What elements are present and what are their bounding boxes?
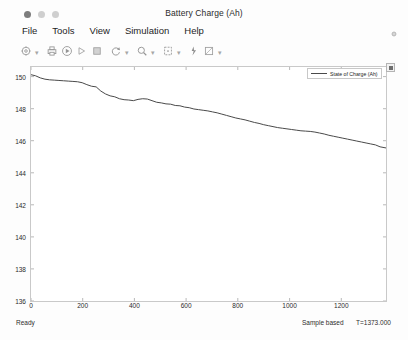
step-forward-icon[interactable] <box>74 43 89 59</box>
y-tick-label: 148 <box>15 105 26 112</box>
zoom-icon[interactable] <box>134 43 149 59</box>
run-icon[interactable] <box>59 43 74 59</box>
y-tick-label: 142 <box>15 201 26 208</box>
signal-statistics-icon[interactable] <box>201 43 216 59</box>
status-ready-text: Ready <box>16 319 35 326</box>
window-title: Battery Charge (Ah) <box>0 8 408 18</box>
signal-plot <box>31 67 386 301</box>
y-tick-label: 144 <box>15 169 26 176</box>
rotate-dropdown-caret[interactable]: ▾ <box>123 43 130 59</box>
x-tick-label: 600 <box>181 302 192 309</box>
menu-item-tools[interactable]: Tools <box>51 24 75 37</box>
x-axis-labels: 020040060080010001200 <box>0 302 408 314</box>
zoom-dropdown-caret[interactable]: ▾ <box>149 43 156 59</box>
y-tick-label: 150 <box>15 73 26 80</box>
x-tick-label: 1200 <box>334 302 348 309</box>
menu-item-help[interactable]: Help <box>183 24 205 37</box>
stop-icon[interactable] <box>89 43 104 59</box>
legend-color-swatch <box>311 73 327 74</box>
status-sample-mode: Sample based <box>302 319 344 326</box>
plot-area[interactable] <box>30 66 387 302</box>
menu-item-simulation[interactable]: Simulation <box>124 24 170 37</box>
cursor-measurements-icon[interactable] <box>186 43 201 59</box>
configuration-properties-icon[interactable] <box>18 43 33 59</box>
legend-label-state-of-charge: State of Charge (Ah) <box>330 71 378 77</box>
axes-properties-icon[interactable] <box>386 63 395 72</box>
series-line-state-of-charge <box>31 75 386 148</box>
y-tick-label: 138 <box>15 265 26 272</box>
menu-bar: File Tools View Simulation Help <box>0 24 408 41</box>
title-bar: Battery Charge (Ah) <box>0 0 408 22</box>
status-sim-time: T=1373.000 <box>356 319 391 326</box>
autoscale-icon[interactable] <box>160 43 175 59</box>
x-tick-label: 1000 <box>282 302 296 309</box>
print-icon[interactable] <box>44 43 59 59</box>
dock-pin-icon[interactable] <box>390 30 398 38</box>
scope-window: Battery Charge (Ah) File Tools View Simu… <box>0 0 408 340</box>
autoscale-dropdown-caret[interactable]: ▾ <box>175 43 182 59</box>
rotate-restore-icon[interactable] <box>108 43 123 59</box>
configuration-dropdown-caret[interactable]: ▾ <box>33 43 40 59</box>
axis-ticks <box>31 67 386 301</box>
x-tick-label: 800 <box>232 302 243 309</box>
y-tick-label: 146 <box>15 137 26 144</box>
x-tick-label: 200 <box>77 302 88 309</box>
x-tick-label: 0 <box>29 302 33 309</box>
plot-legend[interactable]: State of Charge (Ah) <box>307 68 382 79</box>
menu-item-file[interactable]: File <box>21 24 38 37</box>
y-tick-label: 140 <box>15 233 26 240</box>
status-bar: Ready Sample based T=1373.000 <box>0 318 408 332</box>
menu-item-view[interactable]: View <box>89 24 111 37</box>
y-axis-labels: 136138140142144146148150 <box>0 66 29 302</box>
x-tick-label: 400 <box>129 302 140 309</box>
statistics-dropdown-caret[interactable]: ▾ <box>216 43 223 59</box>
toolbar: ▾ <box>0 42 408 62</box>
